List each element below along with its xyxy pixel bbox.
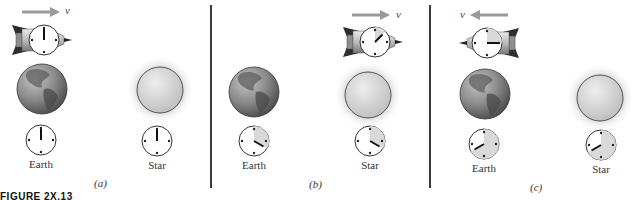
velocity-arrow-icon <box>470 10 510 20</box>
velocity-label: v <box>460 8 465 20</box>
earth-label: Earth <box>459 162 509 174</box>
earth-icon <box>458 67 512 121</box>
star-label: Star <box>576 163 626 175</box>
star-label: Star <box>345 159 395 171</box>
star-label: Star <box>132 159 182 171</box>
earth-clock-icon <box>24 123 58 157</box>
velocity-arrow-icon <box>22 7 62 17</box>
figure-caption: FIGURE 2X.13 <box>0 191 73 200</box>
panel-divider-1 <box>210 5 212 188</box>
star-icon <box>125 55 195 125</box>
panel-label: (b) <box>309 178 322 190</box>
rocket-clock-icon <box>472 28 502 58</box>
star-icon <box>565 63 635 133</box>
earth-icon <box>15 62 69 116</box>
velocity-label: v <box>65 4 70 16</box>
panel-label: (c) <box>530 181 542 193</box>
panel-divider-2 <box>429 5 431 188</box>
panel-label: (a) <box>94 177 107 189</box>
star-clock-icon <box>584 128 618 162</box>
star-clock-icon <box>353 124 387 158</box>
rocket-icon <box>337 24 413 60</box>
rocket-icon <box>6 22 82 58</box>
star-clock-icon <box>140 124 174 158</box>
earth-label: Earth <box>229 159 279 171</box>
star-icon <box>333 60 403 130</box>
rocket-clock-icon <box>29 25 59 55</box>
earth-clock-icon <box>467 127 501 161</box>
rocket-icon <box>449 25 525 61</box>
rocket-clock-icon <box>360 27 390 57</box>
earth-icon <box>227 65 281 119</box>
velocity-label: v <box>396 8 401 20</box>
earth-clock-icon <box>237 124 271 158</box>
earth-label: Earth <box>16 158 66 170</box>
velocity-arrow-icon <box>352 10 392 20</box>
